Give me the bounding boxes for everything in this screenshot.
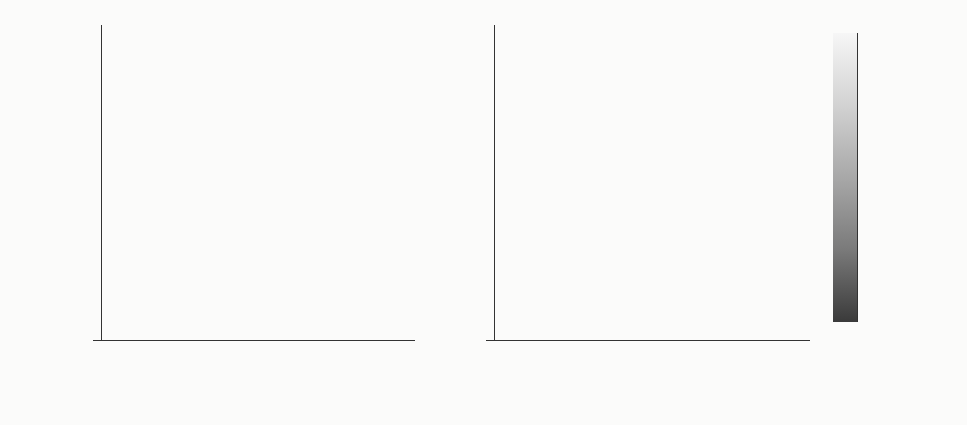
right-y-axis-line <box>494 25 495 341</box>
left-y-axis-line <box>101 25 102 341</box>
colorbar-axis-line <box>857 33 858 322</box>
right-heatmap <box>504 33 800 330</box>
left-x-axis-line <box>93 340 415 341</box>
left-heatmap <box>111 33 410 330</box>
figure <box>0 0 967 425</box>
colorbar-gradient <box>833 33 858 322</box>
right-x-axis-line <box>486 340 810 341</box>
